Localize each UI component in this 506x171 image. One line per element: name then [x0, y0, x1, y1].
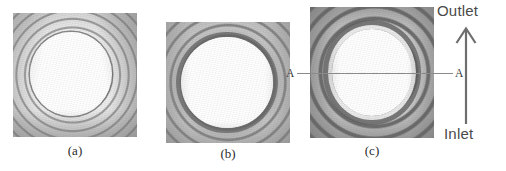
- caption-a: (a): [13, 143, 137, 159]
- caption-c: (c): [310, 143, 434, 159]
- section-label-left: A: [286, 68, 294, 80]
- interferogram-panel-a: [13, 13, 137, 137]
- core-region-b: [181, 37, 273, 129]
- caption-b: (b): [166, 146, 290, 162]
- interferogram-figure: (a) (b) (c) A A Outlet Inlet: [0, 0, 506, 171]
- section-line-a-a: [297, 73, 453, 74]
- interferogram-panel-b: [166, 22, 290, 143]
- outlet-label: Outlet: [437, 2, 478, 19]
- core-region-a: [30, 32, 112, 116]
- inlet-label: Inlet: [444, 125, 473, 142]
- flow-direction-arrow: [449, 24, 483, 126]
